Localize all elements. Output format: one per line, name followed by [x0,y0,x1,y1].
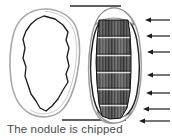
percussion-arrow-3 [147,49,170,54]
plan-view-nodule [10,9,80,117]
nodule-diagram [0,0,172,140]
percussion-arrow-4 [147,72,170,77]
percussion-arrow-2 [146,33,170,38]
profile-view-nodule [89,8,142,123]
percussion-arrow-5 [146,90,170,95]
nodule-chipping-figure: The nodule is chipped [0,0,172,140]
plan-inner-contour [23,16,69,111]
percussion-arrows [139,17,170,123]
figure-caption: The nodule is chipped [0,122,172,136]
percussion-arrow-6 [143,106,170,111]
percussion-arrow-1 [145,17,170,22]
